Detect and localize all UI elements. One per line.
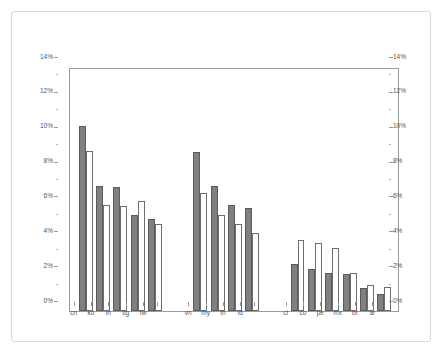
bar-mf <box>325 273 332 311</box>
x-axis-tick <box>338 302 339 306</box>
x-axis-tick <box>355 302 356 306</box>
y-axis-right-tick <box>389 92 393 93</box>
x-axis-group-separator-tick <box>157 302 158 306</box>
x-axis-tick <box>206 302 207 306</box>
y-axis-left-tick <box>54 162 58 163</box>
x-axis-tick <box>303 302 304 306</box>
y-axis-right-tick <box>389 196 393 197</box>
bar-mf <box>193 152 200 311</box>
x-axis-tick-label: id <box>228 310 252 317</box>
x-axis-tick <box>223 302 224 306</box>
y-axis-right-minor-tick <box>389 109 391 110</box>
y-axis-right-minor-tick <box>389 179 391 180</box>
y-axis-right-tick-label: 2% <box>393 263 419 270</box>
bar-mf <box>377 294 384 311</box>
plot-inner <box>70 69 398 311</box>
y-axis-left-tick <box>54 127 58 128</box>
bar-mf <box>228 205 235 311</box>
bar-gdp-mf <box>367 285 374 311</box>
bar-gdp-mf <box>86 151 93 311</box>
bar-mf <box>343 274 350 311</box>
x-axis-tick <box>320 302 321 306</box>
y-axis-right-tick <box>389 231 393 232</box>
y-axis-left-tick-label: 0% <box>27 298 53 305</box>
x-axis-tick <box>286 302 287 306</box>
chart-frame: mf gdp-mf 0%0%2%2%4%4%6%6%8%8%10%10%12%1… <box>11 11 431 342</box>
y-axis-left-minor-tick <box>56 109 58 110</box>
bar-mf <box>211 186 218 311</box>
y-axis-right-tick <box>389 127 393 128</box>
y-axis-left-minor-tick <box>56 214 58 215</box>
y-axis-right-minor-tick <box>389 284 391 285</box>
x-axis-tick <box>372 302 373 306</box>
y-axis-right-minor-tick <box>389 249 391 250</box>
y-axis-right-tick-label: 4% <box>393 228 419 235</box>
y-axis-left-tick-label: 12% <box>27 88 53 95</box>
bar-gdp-mf <box>103 205 110 311</box>
bar-gdp-mf <box>155 224 162 311</box>
y-axis-right-tick-label: 8% <box>393 158 419 165</box>
y-axis-left-tick-label: 2% <box>27 263 53 270</box>
plot-area <box>69 68 399 312</box>
bar-gdp-mf <box>218 215 225 311</box>
y-axis-right-minor-tick <box>389 144 391 145</box>
bar-mf <box>360 288 367 311</box>
y-axis-right-tick <box>389 266 393 267</box>
y-axis-right-tick <box>389 162 393 163</box>
chart-screenshot: mf gdp-mf 0%0%2%2%4%4%6%6%8%8%10%10%12%1… <box>0 0 447 358</box>
bar-gdp-mf <box>384 287 391 311</box>
y-axis-left-minor-tick <box>56 249 58 250</box>
y-axis-left-tick <box>54 57 58 58</box>
x-axis-tick-label: tw <box>131 310 155 317</box>
bar-mf <box>245 208 252 311</box>
y-axis-left-tick-label: 10% <box>27 123 53 130</box>
y-axis-left-tick <box>54 301 58 302</box>
x-axis-tick <box>108 302 109 306</box>
bar-gdp-mf <box>315 243 322 311</box>
bar-mf <box>131 215 138 311</box>
x-axis-group-separator-tick <box>254 302 255 306</box>
y-axis-left-minor-tick <box>56 74 58 75</box>
y-axis-left-minor-tick <box>56 284 58 285</box>
y-axis-right-tick-label: 10% <box>393 123 419 130</box>
x-axis-tick <box>240 302 241 306</box>
bar-gdp-mf <box>138 201 145 311</box>
bar-gdp-mf <box>235 224 242 311</box>
x-axis-tick <box>188 302 189 306</box>
bar-gdp-mf <box>252 233 259 311</box>
bar-gdp-mf <box>120 206 127 311</box>
y-axis-left-tick <box>54 266 58 267</box>
y-axis-left-tick-label: 14% <box>27 54 53 61</box>
y-axis-right-tick-label: 14% <box>393 54 419 61</box>
y-axis-left-tick <box>54 196 58 197</box>
x-axis-tick <box>143 302 144 306</box>
bar-mf <box>148 219 155 311</box>
y-axis-right-tick <box>389 57 393 58</box>
bar-mf <box>113 187 120 311</box>
y-axis-right-tick-label: 12% <box>393 88 419 95</box>
bar-mf <box>96 186 103 311</box>
y-axis-left-tick <box>54 231 58 232</box>
y-axis-right-minor-tick <box>389 74 391 75</box>
bar-gdp-mf <box>298 240 305 311</box>
x-axis-tick-label: ar <box>360 310 384 317</box>
y-axis-right-minor-tick <box>389 214 391 215</box>
y-axis-left-minor-tick <box>56 179 58 180</box>
bar-mf <box>79 126 86 311</box>
y-axis-left-tick-label: 4% <box>27 228 53 235</box>
y-axis-right-tick-label: 6% <box>393 193 419 200</box>
bar-mf <box>291 264 298 311</box>
y-axis-left-tick-label: 6% <box>27 193 53 200</box>
x-axis-tick <box>126 302 127 306</box>
y-axis-right-tick <box>389 301 393 302</box>
x-axis-tick <box>74 302 75 306</box>
bar-mf <box>308 269 315 311</box>
bar-gdp-mf <box>200 193 207 312</box>
y-axis-left-minor-tick <box>56 144 58 145</box>
y-axis-right-tick-label: 0% <box>393 298 419 305</box>
x-axis-tick <box>91 302 92 306</box>
y-axis-left-tick-label: 8% <box>27 158 53 165</box>
y-axis-left-tick <box>54 92 58 93</box>
